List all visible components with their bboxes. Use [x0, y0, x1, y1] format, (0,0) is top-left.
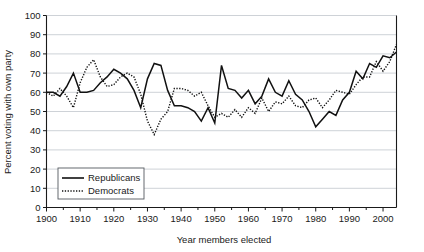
x-tick-label: 1990 — [339, 213, 360, 224]
y-tick-label: 80 — [30, 48, 41, 59]
x-tick-label: 1960 — [238, 213, 259, 224]
gridlines — [47, 16, 397, 189]
x-axis-title: Year members elected — [177, 234, 272, 245]
y-tick-label: 50 — [30, 106, 41, 117]
data-series — [47, 44, 397, 134]
x-tick-label: 2000 — [372, 213, 393, 224]
y-tick-label: 100 — [25, 10, 41, 21]
y-tick-label: 0 — [35, 202, 40, 213]
series-line-republicans — [47, 52, 397, 127]
x-tick-label: 1900 — [36, 213, 57, 224]
series-line-democrats — [47, 44, 397, 134]
x-tick-label: 1980 — [305, 213, 326, 224]
x-axis-ticks — [47, 208, 384, 212]
x-axis-tick-labels: 1900191019201930194019501960197019801990… — [36, 213, 394, 224]
y-tick-label: 20 — [30, 164, 41, 175]
x-tick-label: 1920 — [103, 213, 124, 224]
y-tick-label: 70 — [30, 68, 41, 79]
x-tick-label: 1940 — [171, 213, 192, 224]
legend: RepublicansDemocrats — [58, 168, 144, 199]
y-tick-label: 30 — [30, 144, 41, 155]
x-tick-label: 1970 — [272, 213, 293, 224]
party-voting-line-chart: 0102030405060708090100 19001910192019301… — [0, 0, 424, 252]
legend-label-republicans: Republicans — [88, 172, 141, 183]
y-axis-tick-labels: 0102030405060708090100 — [25, 10, 41, 213]
legend-label-democrats: Democrats — [88, 185, 134, 196]
x-tick-label: 1930 — [137, 213, 158, 224]
y-axis-title: Percent voting with own party — [2, 50, 13, 174]
chart-page: 0102030405060708090100 19001910192019301… — [0, 0, 424, 252]
x-tick-label: 1950 — [204, 213, 225, 224]
y-tick-label: 90 — [30, 29, 41, 40]
y-tick-label: 40 — [30, 125, 41, 136]
y-tick-label: 10 — [30, 183, 41, 194]
x-tick-label: 1910 — [70, 213, 91, 224]
y-tick-label: 60 — [30, 87, 41, 98]
